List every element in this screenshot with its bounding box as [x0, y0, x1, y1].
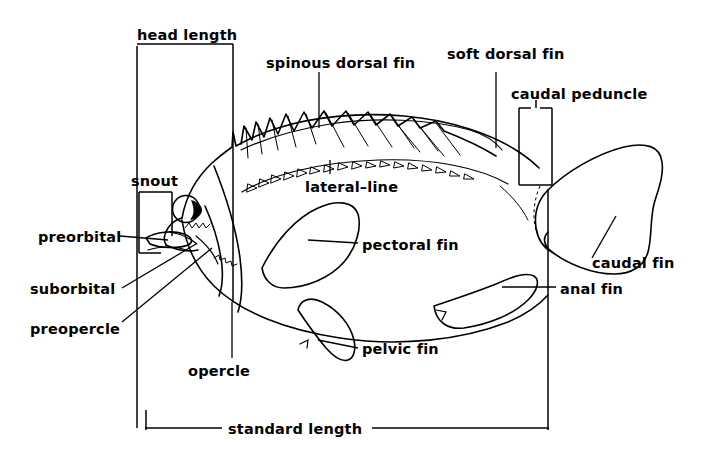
- fish-anatomy-diagram: head length spinous dorsal fin soft dors…: [0, 0, 713, 456]
- label-anal-fin: anal fin: [560, 281, 623, 297]
- label-snout: snout: [131, 173, 178, 189]
- label-soft-dorsal-fin: soft dorsal fin: [447, 46, 564, 62]
- snout-bracket: [139, 192, 172, 253]
- label-spinous-dorsal-fin: spinous dorsal fin: [266, 55, 415, 71]
- label-preorbital: preorbital: [38, 229, 122, 245]
- fish-body-outline: [146, 115, 548, 342]
- label-preopercle: preopercle: [30, 321, 120, 337]
- label-lateral-line: lateral–line: [305, 179, 398, 195]
- label-caudal-peduncle: caudal peduncle: [511, 86, 648, 102]
- label-head-length: head length: [137, 27, 237, 43]
- label-pelvic-fin: pelvic fin: [362, 341, 439, 357]
- label-standard-length: standard length: [228, 421, 362, 437]
- anal-fin: [434, 274, 537, 328]
- fish-diagram-svg: head length spinous dorsal fin soft dors…: [0, 0, 713, 456]
- pelvic-fin: [298, 299, 355, 360]
- caudal-peduncle-bracket: [519, 100, 552, 185]
- standard-length-measure: [145, 190, 549, 430]
- dorsal-fin: [241, 111, 502, 158]
- label-caudal-fin: caudal fin: [592, 255, 675, 271]
- label-suborbital: suborbital: [30, 281, 115, 297]
- label-opercle: opercle: [188, 363, 250, 379]
- pectoral-fin: [262, 203, 359, 288]
- label-pectoral-fin: pectoral fin: [362, 237, 459, 253]
